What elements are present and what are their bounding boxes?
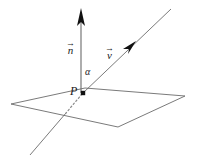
- angle-label: α: [85, 67, 90, 77]
- normal-vector-label: → n: [66, 41, 75, 56]
- direction-line-solid: [83, 9, 171, 93]
- point-label: P: [70, 85, 77, 97]
- plane-parallelogram: [11, 88, 185, 127]
- figure-canvas: [0, 0, 198, 159]
- direction-line-lower-extension: [30, 113, 66, 155]
- direction-vector-label: → v: [105, 46, 114, 61]
- point-marker-P: [81, 91, 85, 95]
- geometry-figure: → n → v α P: [0, 0, 198, 159]
- direction-vector-arrowhead: [123, 41, 136, 54]
